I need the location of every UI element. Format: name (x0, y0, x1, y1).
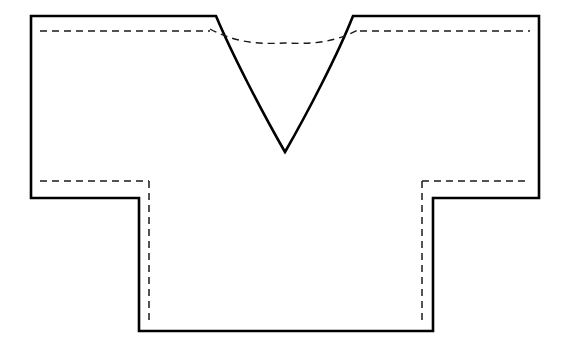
pattern-diagram-canvas (0, 0, 572, 350)
tshirt-pattern-svg (0, 0, 572, 350)
